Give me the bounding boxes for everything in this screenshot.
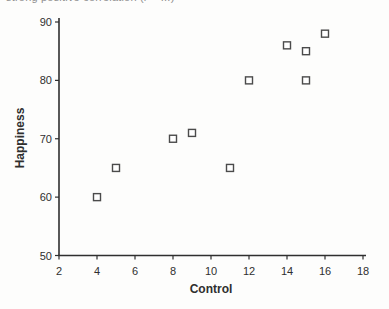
- x-tick-label: 16: [319, 265, 331, 277]
- y-tick-label: 60: [40, 191, 52, 203]
- x-tick-label: 8: [170, 265, 176, 277]
- chart-canvas: 246810121416185060708090 Control Happine…: [0, 0, 389, 309]
- x-tick-label: 4: [94, 265, 100, 277]
- data-point: [227, 164, 234, 171]
- x-tick-label: 12: [243, 265, 255, 277]
- data-point: [94, 194, 101, 201]
- y-tick-label: 90: [40, 16, 52, 28]
- data-point: [189, 129, 196, 136]
- plot-axes: 246810121416185060708090: [40, 16, 369, 277]
- data-point: [303, 48, 310, 55]
- data-point: [113, 164, 120, 171]
- y-tick-label: 70: [40, 133, 52, 145]
- data-point: [170, 135, 177, 142]
- x-tick-label: 14: [281, 265, 293, 277]
- y-tick-label: 50: [40, 250, 52, 262]
- data-point: [284, 42, 291, 49]
- x-tick-label: 2: [56, 265, 62, 277]
- y-tick-label: 80: [40, 74, 52, 86]
- data-point: [322, 30, 329, 37]
- y-axis-title: Happiness: [13, 107, 27, 168]
- x-tick-label: 6: [132, 265, 138, 277]
- x-axis-title: Control: [190, 282, 233, 296]
- data-point: [246, 77, 253, 84]
- data-point: [303, 77, 310, 84]
- scatter-plot-figure: strong positive correlation (r = ...) 24…: [0, 0, 389, 309]
- x-tick-label: 10: [205, 265, 217, 277]
- x-tick-label: 18: [357, 265, 369, 277]
- plot-points: [94, 30, 329, 200]
